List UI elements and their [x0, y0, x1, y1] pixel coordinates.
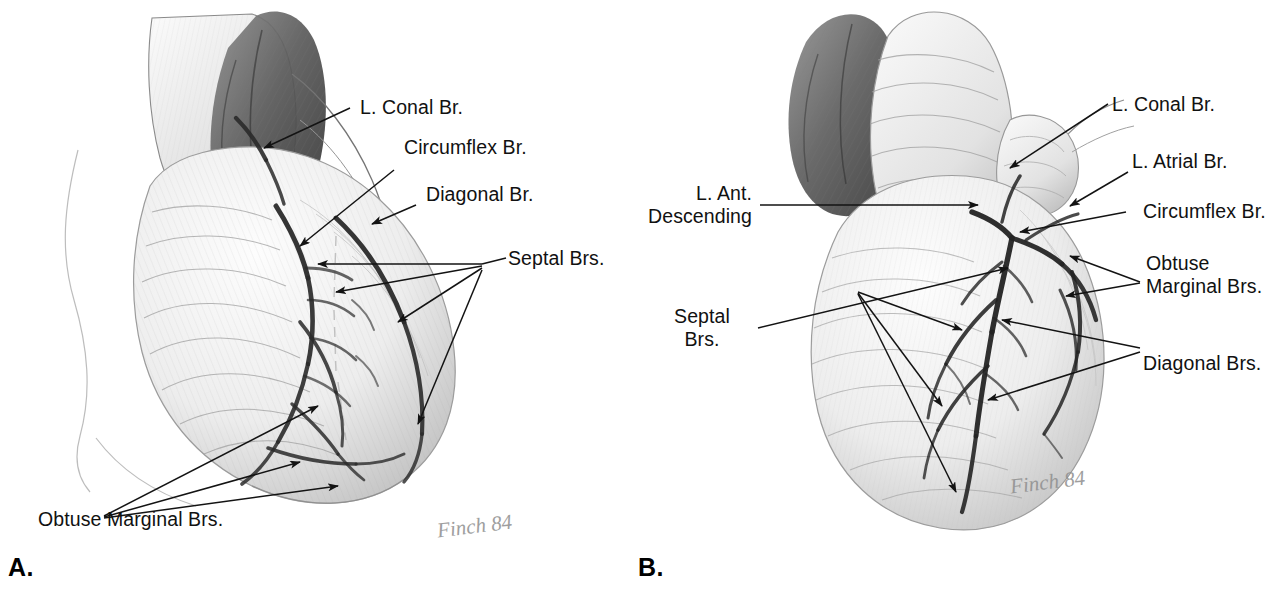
label-b-l-conal-br: L. Conal Br. — [1112, 93, 1215, 116]
panel-letter-b: B. — [638, 553, 664, 582]
label-a-septal-brs: Septal Brs. — [508, 247, 604, 270]
figure-root: L. Conal Br. Circumflex Br. Diagonal Br.… — [0, 0, 1285, 597]
label-a-diagonal-br: Diagonal Br. — [426, 183, 533, 206]
label-b-l-ant-descending: L. Ant. Descending — [600, 182, 752, 228]
panel-a-drawing — [65, 11, 506, 518]
label-a-circumflex-br: Circumflex Br. — [404, 136, 527, 159]
label-b-obtuse-marginal-brs: Obtuse Marginal Brs. — [1146, 252, 1262, 298]
label-b-circumflex-br: Circumflex Br. — [1143, 200, 1266, 223]
label-a-l-conal-br: L. Conal Br. — [360, 96, 463, 119]
leader-a-septal-text-tick — [482, 258, 506, 264]
label-b-septal-brs: Septal Brs. — [652, 305, 752, 351]
panel-b-drawing — [758, 12, 1140, 530]
leader-b-l-atrial-br — [1070, 172, 1128, 206]
panel-letter-a: A. — [8, 553, 34, 582]
label-a-obtuse-marginal-brs: Obtuse Marginal Brs. — [38, 508, 223, 531]
label-b-diagonal-brs: Diagonal Brs. — [1143, 352, 1261, 375]
label-b-l-atrial-br: L. Atrial Br. — [1132, 150, 1228, 173]
